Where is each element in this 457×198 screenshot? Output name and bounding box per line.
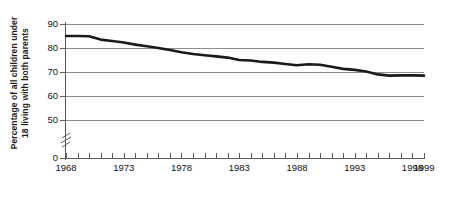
x-tick-label-1978: 1978 xyxy=(161,162,201,173)
y-tick-label-60: 60 xyxy=(2,91,58,100)
x-tick-label-1983: 1983 xyxy=(219,162,259,173)
x-tick-label-1999: 1999 xyxy=(404,162,444,173)
x-tick-label-1973: 1973 xyxy=(104,162,144,173)
x-tick-label-1988: 1988 xyxy=(277,162,317,173)
x-tick-label-1993: 1993 xyxy=(335,162,375,173)
y-axis-title-line-1: Percentage of all children under xyxy=(9,17,19,150)
line-chart-figure: Percentage of all children under 18 livi… xyxy=(0,0,457,198)
y-tick-label-90: 90 xyxy=(2,19,58,28)
y-tick-0 xyxy=(60,158,66,159)
y-tick-label-0: 0 xyxy=(2,153,58,162)
x-axis-line xyxy=(65,158,425,159)
y-tick-label-70: 70 xyxy=(2,67,58,76)
y-tick-label-80: 80 xyxy=(2,43,58,52)
series-line-percentage-children-both-parents xyxy=(66,24,424,158)
plot-area xyxy=(66,24,424,158)
x-tick-label-1968: 1968 xyxy=(46,162,86,173)
x-tick-1999 xyxy=(424,153,425,158)
y-tick-label-50: 50 xyxy=(2,115,58,124)
